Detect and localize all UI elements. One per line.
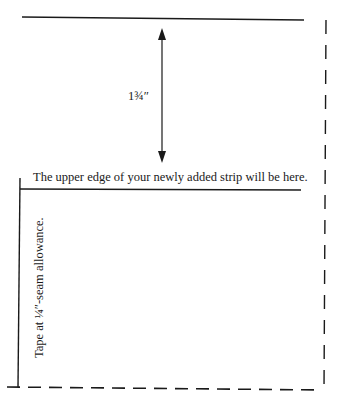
new-strip-edge-line <box>20 189 301 190</box>
tape-note: Tape at ¼″-seam allowance. <box>32 217 47 358</box>
bottom-dashed-line <box>7 387 322 390</box>
diagram-canvas <box>0 0 363 405</box>
double-arrow-icon <box>158 28 166 163</box>
upper-edge-note: The upper edge of your newly added strip… <box>33 170 308 185</box>
measurement-label: 1¾″ <box>128 89 149 104</box>
right-dashed-line <box>324 20 326 390</box>
top-edge-line <box>22 17 304 20</box>
left-tape-line <box>18 178 20 387</box>
